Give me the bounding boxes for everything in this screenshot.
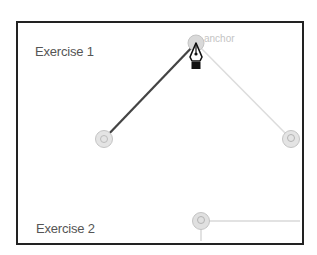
anchor-bottom[interactable]	[193, 213, 210, 230]
anchor-left[interactable]	[96, 131, 113, 148]
anchor-circle-icon	[283, 131, 300, 148]
exercise-2-label: Exercise 2	[36, 221, 95, 236]
exercise-1-label: Exercise 1	[35, 44, 94, 59]
path-canvas[interactable]	[0, 0, 317, 255]
anchor-right[interactable]	[283, 131, 300, 148]
anchor-circle-icon	[96, 131, 113, 148]
anchor-circle-icon	[193, 213, 210, 230]
anchor-hint-tooltip: anchor	[204, 33, 235, 44]
drawn-path-segment[interactable]	[104, 43, 196, 139]
guide-line-top-right	[196, 43, 291, 139]
